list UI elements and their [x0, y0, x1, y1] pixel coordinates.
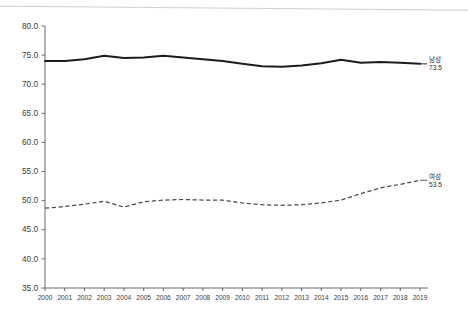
- y-tick-label: 50.0: [22, 196, 38, 205]
- series-line-male: [45, 56, 420, 67]
- end-label-value-male: 73.5: [429, 64, 442, 71]
- y-tick-label: 55.0: [22, 167, 38, 176]
- x-tick-label: 2019: [413, 294, 428, 301]
- x-tick-label: 2009: [215, 294, 230, 301]
- x-tick-label: 2014: [314, 294, 329, 301]
- y-tick-label: 80.0: [22, 22, 38, 31]
- x-tick-label: 2002: [77, 294, 92, 301]
- y-axis: 80.075.070.065.060.055.050.045.040.035.0: [22, 22, 45, 293]
- x-tick-label: 2016: [353, 294, 368, 301]
- series-lines: [45, 56, 427, 209]
- y-tick-label: 65.0: [22, 109, 38, 118]
- x-tick-label: 2015: [334, 294, 349, 301]
- x-tick-label: 2005: [136, 294, 151, 301]
- x-tick-label: 2008: [196, 294, 211, 301]
- x-tick-label: 2006: [156, 294, 171, 301]
- x-tick-label: 2003: [97, 294, 112, 301]
- x-tick-label: 2017: [373, 294, 388, 301]
- series-line-female: [45, 180, 420, 208]
- chart-plot-area: 80.075.070.065.060.055.050.045.040.035.0…: [0, 0, 468, 329]
- y-tick-label: 60.0: [22, 138, 38, 147]
- series-end-labels: 남성73.5여성53.5: [429, 55, 442, 187]
- x-tick-label: 2007: [176, 294, 191, 301]
- x-tick-label: 2011: [255, 294, 270, 301]
- y-tick-label: 45.0: [22, 225, 38, 234]
- end-label-name-female: 여성: [429, 172, 441, 181]
- y-tick-label: 35.0: [22, 284, 38, 293]
- end-label-value-female: 53.5: [429, 181, 442, 188]
- x-tick-label: 2012: [275, 294, 290, 301]
- x-axis: 2000200120022003200420052006200720082009…: [38, 288, 428, 301]
- line-chart: 80.075.070.065.060.055.050.045.040.035.0…: [0, 0, 468, 329]
- y-tick-label: 40.0: [22, 255, 38, 264]
- x-tick-label: 2018: [393, 294, 408, 301]
- x-tick-label: 2000: [38, 294, 53, 301]
- x-tick-label: 2001: [57, 294, 72, 301]
- x-tick-label: 2010: [235, 294, 250, 301]
- end-label-name-male: 남성: [429, 55, 441, 63]
- y-tick-label: 75.0: [22, 51, 38, 60]
- x-tick-label: 2013: [294, 294, 309, 301]
- x-tick-label: 2004: [117, 294, 132, 301]
- y-tick-label: 70.0: [22, 80, 38, 89]
